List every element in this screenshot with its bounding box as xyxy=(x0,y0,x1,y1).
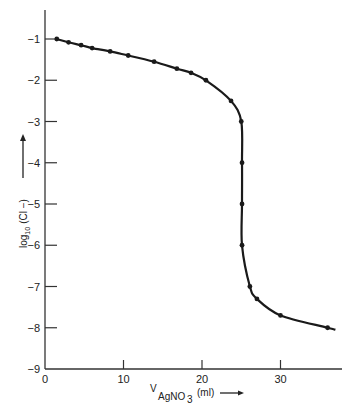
data-point xyxy=(255,296,260,301)
data-point xyxy=(240,202,245,207)
y-tick-label: −6 xyxy=(27,239,40,251)
data-point xyxy=(204,78,209,83)
data-point xyxy=(174,66,179,71)
svg-text:3: 3 xyxy=(187,394,193,405)
data-point xyxy=(278,313,283,318)
svg-text:AgNO: AgNO xyxy=(158,391,185,402)
y-tick-label: −2 xyxy=(27,74,40,86)
y-tick-label: −8 xyxy=(27,322,40,334)
data-point xyxy=(229,98,234,103)
data-point xyxy=(66,40,71,45)
x-tick-label: 0 xyxy=(42,373,48,385)
data-point xyxy=(108,49,113,54)
data-point xyxy=(152,59,157,64)
data-points xyxy=(54,37,330,331)
y-tick-label: −7 xyxy=(27,281,40,293)
svg-text:(ml): (ml) xyxy=(197,387,214,398)
y-tick-label: −5 xyxy=(27,198,40,210)
y-tick-label: −3 xyxy=(27,116,40,128)
y-tick-label: −9 xyxy=(27,363,40,375)
x-axis-label: V AgNO 3 (ml) xyxy=(150,383,244,405)
titration-chart: −1−2−3−4−5−6−7−8−90102030 log10(Cl −) V … xyxy=(0,0,358,411)
titration-curve xyxy=(57,39,336,330)
data-point xyxy=(90,46,95,51)
axis-ticks: −1−2−3−4−5−6−7−8−90102030 xyxy=(27,33,286,385)
y-tick-label: −4 xyxy=(27,157,40,169)
x-tick-label: 10 xyxy=(117,373,129,385)
y-tick-label: −1 xyxy=(27,33,40,45)
y-axis-label: log10(Cl −) xyxy=(18,134,31,248)
data-point xyxy=(239,119,244,124)
data-point xyxy=(189,70,194,75)
x-tick-label: 20 xyxy=(196,373,208,385)
x-tick-label: 30 xyxy=(274,373,286,385)
data-point xyxy=(240,160,245,165)
data-point xyxy=(54,37,59,42)
data-point xyxy=(240,243,245,248)
data-point xyxy=(325,325,330,330)
svg-text:V: V xyxy=(150,383,157,394)
data-point xyxy=(79,43,84,48)
data-point xyxy=(126,53,131,58)
data-point xyxy=(247,284,252,289)
axes xyxy=(45,10,342,369)
